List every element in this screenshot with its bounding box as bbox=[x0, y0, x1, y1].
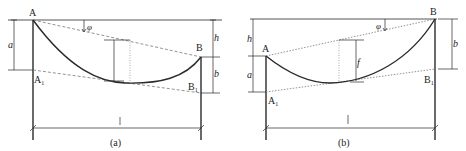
label-a-B: B bbox=[196, 42, 203, 53]
label-b-b: b bbox=[453, 38, 458, 49]
label-a-A1: A1 bbox=[34, 74, 44, 86]
figure-b-labels: A B A1 B1 h a b f φ (b) bbox=[247, 6, 458, 149]
cable-sag-diagram: A B A1 B1 a h b φ (a) A B A1 bbox=[0, 0, 466, 151]
cable-curve-b bbox=[266, 19, 435, 83]
label-a-B1: B1 bbox=[188, 81, 198, 93]
chord-a1b1 bbox=[33, 70, 201, 93]
label-b-B: B bbox=[430, 6, 437, 17]
label-b-a: a bbox=[247, 69, 252, 80]
label-b-A: A bbox=[262, 43, 270, 54]
label-b-f: f bbox=[357, 57, 361, 68]
label-b-phi: φ bbox=[376, 21, 381, 31]
label-a-b: b bbox=[214, 68, 219, 79]
label-a-h: h bbox=[214, 32, 219, 43]
caption-a: (a) bbox=[110, 137, 121, 149]
label-a-A: A bbox=[29, 7, 37, 18]
label-a-a: a bbox=[8, 39, 13, 50]
label-a-phi: φ bbox=[87, 22, 92, 32]
chord-ab bbox=[33, 20, 201, 57]
caption-b: (b) bbox=[338, 137, 350, 149]
label-b-A1: A1 bbox=[268, 95, 278, 107]
label-b-h: h bbox=[247, 33, 252, 44]
label-b-B1: B1 bbox=[424, 74, 434, 86]
